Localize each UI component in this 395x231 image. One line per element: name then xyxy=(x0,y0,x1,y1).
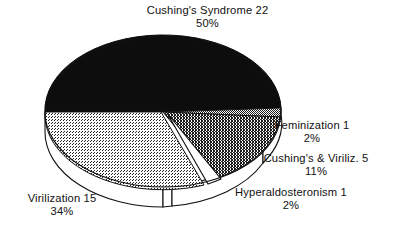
slice-label-line1: Hyperaldosteronism 1 xyxy=(211,186,371,199)
slice-label-percent: 34% xyxy=(3,205,121,218)
slice-cushings-syndrome xyxy=(45,35,281,112)
slice-label-percent: 2% xyxy=(252,132,372,145)
pie-chart-figure: Cushing's Syndrome 22 50% Feminization 1… xyxy=(0,0,395,231)
slice-label-cushings-viriliz: Cushing's & Viriliz. 5 11% xyxy=(243,152,389,177)
slice-label-feminization: Feminization 1 2% xyxy=(252,119,372,144)
slice-label-line1: Virilization 15 xyxy=(3,192,121,205)
slice-label-line1: Feminization 1 xyxy=(252,119,372,132)
slice-label-hyperaldosteronism: Hyperaldosteronism 1 2% xyxy=(211,186,371,211)
slice-label-line1: Cushing's & Viriliz. 5 xyxy=(243,152,389,165)
slice-label-cushings-syndrome: Cushing's Syndrome 22 50% xyxy=(140,4,275,29)
slice-label-percent: 50% xyxy=(140,17,275,30)
slice-label-percent: 11% xyxy=(243,165,389,178)
slice-label-percent: 2% xyxy=(211,199,371,212)
slice-label-virilization: Virilization 15 34% xyxy=(3,192,121,217)
slice-label-line1: Cushing's Syndrome 22 xyxy=(140,4,275,17)
